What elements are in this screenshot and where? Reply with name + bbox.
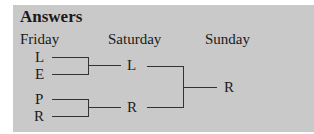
bracket-line <box>147 66 184 67</box>
sunday-winner: R <box>224 80 234 95</box>
bracket-line <box>52 57 89 58</box>
header-friday: Friday <box>20 32 59 47</box>
header-saturday: Saturday <box>108 32 161 47</box>
bracket-line <box>52 116 89 117</box>
bracket-line <box>88 99 89 117</box>
friday-team-1: L <box>35 50 44 65</box>
bracket-line <box>88 57 89 75</box>
bracket-line <box>52 99 89 100</box>
friday-team-3: P <box>35 92 43 107</box>
saturday-winner-1: L <box>127 58 136 73</box>
friday-team-4: R <box>34 109 44 124</box>
bracket-line <box>147 107 184 108</box>
bracket-line <box>183 87 217 88</box>
bracket-line <box>88 65 121 66</box>
saturday-winner-2: R <box>127 100 137 115</box>
bracket-line <box>88 107 121 108</box>
friday-team-2: E <box>35 67 44 82</box>
bracket-line <box>52 74 89 75</box>
answers-title: Answers <box>20 8 82 25</box>
header-sunday: Sunday <box>205 32 250 47</box>
